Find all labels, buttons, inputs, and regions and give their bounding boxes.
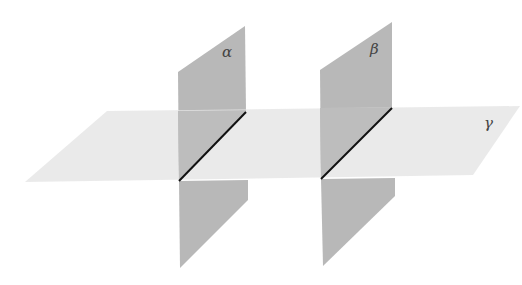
- label-beta: β: [369, 40, 379, 58]
- label-alpha: α: [222, 43, 232, 61]
- plane-gamma: [25, 106, 520, 182]
- plane-beta-lower: [321, 178, 395, 266]
- label-gamma: γ: [484, 114, 493, 132]
- planes-diagram: α β γ: [0, 0, 522, 285]
- plane-alpha-lower: [179, 180, 248, 268]
